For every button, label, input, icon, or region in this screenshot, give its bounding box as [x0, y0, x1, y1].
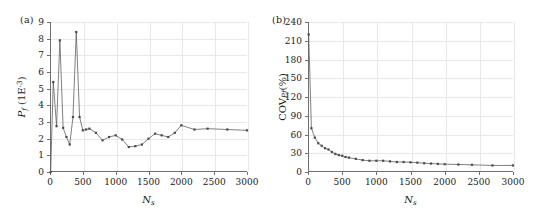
data-point-marker — [331, 151, 333, 153]
data-point-marker — [101, 139, 103, 141]
data-point-marker — [154, 133, 156, 135]
data-point-marker — [180, 124, 182, 126]
data-point-marker — [141, 143, 143, 145]
data-point-marker — [226, 128, 228, 130]
data-point-marker — [430, 162, 432, 164]
data-point-marker — [334, 153, 336, 155]
data-point-marker — [368, 160, 370, 162]
data-point-marker — [115, 134, 117, 136]
data-point-marker — [55, 125, 57, 127]
panel-b: (b) Ns COVPf(%) 050010001500200025003000… — [272, 0, 543, 224]
data-point-marker — [88, 128, 90, 130]
data-point-marker — [246, 129, 248, 131]
data-point-marker — [362, 159, 364, 161]
data-point-marker — [308, 33, 310, 35]
data-point-marker — [121, 138, 123, 140]
data-point-marker — [310, 127, 312, 129]
data-point-marker — [52, 81, 54, 83]
data-point-marker — [69, 143, 71, 145]
data-point-marker — [344, 156, 346, 158]
data-point-marker — [396, 161, 398, 163]
data-point-marker — [327, 148, 329, 150]
data-point-marker — [128, 146, 130, 148]
data-point-marker — [75, 31, 77, 33]
data-point-marker — [324, 147, 326, 149]
data-point-marker — [167, 136, 169, 138]
data-point-marker — [174, 132, 176, 134]
figure-container: (a) Ns Pf (1E-3) 05001000150020002500300… — [0, 0, 543, 224]
data-point-marker — [59, 39, 61, 41]
data-point-marker — [338, 154, 340, 156]
data-point-marker — [382, 160, 384, 162]
data-point-marker — [72, 116, 74, 118]
data-point-marker — [471, 164, 473, 166]
data-point-marker — [317, 142, 319, 144]
data-point-marker — [348, 157, 350, 159]
data-point-marker — [444, 163, 446, 165]
data-point-marker — [457, 163, 459, 165]
data-point-marker — [437, 163, 439, 165]
data-point-marker — [375, 160, 377, 162]
data-line — [309, 35, 513, 166]
data-point-marker — [161, 134, 163, 136]
data-point-marker — [108, 136, 110, 138]
data-point-marker — [134, 145, 136, 147]
data-point-marker — [314, 137, 316, 139]
data-point-marker — [409, 161, 411, 163]
data-point-marker — [147, 138, 149, 140]
data-point-marker — [82, 129, 84, 131]
panel-a: (a) Ns Pf (1E-3) 05001000150020002500300… — [0, 0, 271, 224]
data-line — [51, 32, 247, 172]
data-point-marker — [321, 145, 323, 147]
data-point-marker — [50, 171, 52, 173]
data-series-layer — [272, 0, 543, 224]
data-point-marker — [423, 162, 425, 164]
data-series-layer — [0, 0, 271, 224]
data-point-marker — [355, 158, 357, 160]
data-point-marker — [403, 161, 405, 163]
data-point-marker — [416, 162, 418, 164]
data-point-marker — [65, 136, 67, 138]
data-point-marker — [193, 128, 195, 130]
data-point-marker — [95, 132, 97, 134]
data-point-marker — [207, 128, 209, 130]
data-point-marker — [341, 155, 343, 157]
data-point-marker — [491, 164, 493, 166]
data-point-marker — [78, 116, 80, 118]
data-point-marker — [512, 164, 514, 166]
data-point-marker — [62, 127, 64, 129]
data-point-marker — [85, 128, 87, 130]
data-point-marker — [389, 160, 391, 162]
